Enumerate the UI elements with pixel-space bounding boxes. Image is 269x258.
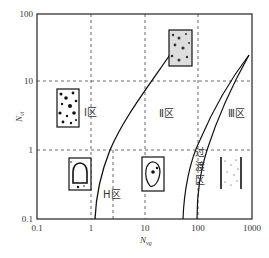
bubble-flow-icon <box>57 89 79 127</box>
y-axis-label: Nvl <box>14 111 25 123</box>
x-tick-1: 1 <box>89 223 94 233</box>
zone-2-label: Ⅱ区 <box>159 108 174 119</box>
mist-flow-icon <box>221 157 241 189</box>
zone-1-label: Ⅰ区 <box>84 107 97 118</box>
x-tick-10: 10 <box>141 223 151 233</box>
transition-label-2: 渡 <box>195 160 205 172</box>
y-tick-100: 100 <box>20 9 34 19</box>
annular-dense-flow-icon <box>169 30 192 66</box>
transition-label-1: 过 <box>195 146 205 158</box>
x-tick-0.1: 0.1 <box>31 223 42 233</box>
zone-3-label: Ⅲ区 <box>228 108 245 119</box>
x-axis-label: Nvg <box>139 235 152 246</box>
x-tick-100: 100 <box>191 223 205 233</box>
slug-flow-icon <box>69 158 91 190</box>
flow-regime-chart: 100 10 1 0.1 0.1 1 10 100 1000 Nvg Nvl Ⅰ… <box>0 0 269 258</box>
transition-label-3: 区 <box>195 175 205 186</box>
transition-right-curve <box>197 55 249 219</box>
zone-h-label: H区 <box>103 189 121 200</box>
churn-flow-icon <box>142 157 164 191</box>
transition-left-curve <box>183 55 249 219</box>
y-tick-10: 10 <box>24 76 34 86</box>
x-tick-1000: 1000 <box>243 223 262 233</box>
y-tick-1: 1 <box>29 145 34 155</box>
